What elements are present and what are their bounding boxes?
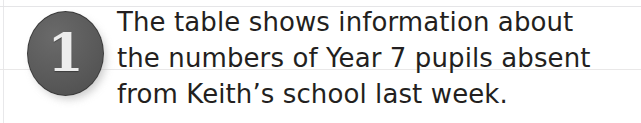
question-text-line-1: The table shows information about	[117, 4, 637, 40]
badge-circle: 1	[27, 11, 104, 96]
question-text-line-2: the numbers of Year 7 pupils absent	[117, 40, 637, 76]
page-margin-rule-vertical	[3, 0, 4, 123]
question-number-label: 1	[47, 27, 83, 79]
question-text: The table shows information about the nu…	[117, 4, 637, 112]
question-number-badge: 1	[27, 11, 107, 99]
question-text-line-3: from Keith’s school last week.	[117, 76, 637, 112]
question-stem-block: 1 The table shows information about the …	[0, 0, 641, 123]
